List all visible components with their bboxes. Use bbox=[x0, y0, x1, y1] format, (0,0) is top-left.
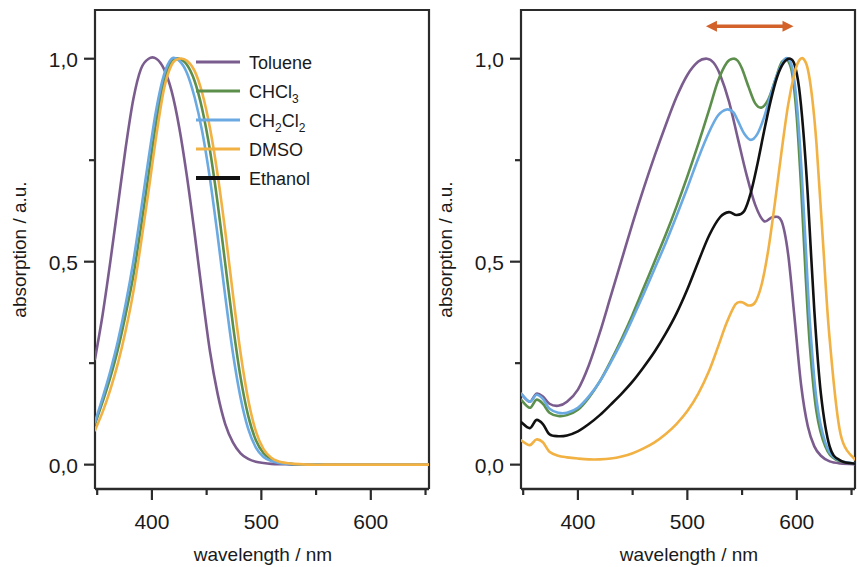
curve-ch2cl2 bbox=[521, 58, 857, 464]
x-axis-title: wavelength / nm bbox=[619, 544, 758, 565]
series-group bbox=[521, 58, 857, 464]
y-tick-label: 0,0 bbox=[49, 454, 78, 477]
y-tick-label: 0,0 bbox=[475, 454, 504, 477]
y-axis-title: absorption / a.u. bbox=[435, 181, 456, 317]
x-tick-label: 500 bbox=[244, 510, 279, 533]
y-axis-title: absorption / a.u. bbox=[9, 181, 30, 317]
range-arrow-annotation bbox=[706, 21, 794, 32]
legend-label-toluene: Toluene bbox=[249, 53, 312, 73]
x-tick-label: 400 bbox=[134, 510, 169, 533]
legend-label-ch2cl2: CH2Cl2 bbox=[249, 111, 306, 135]
legend-label-ethanol: Ethanol bbox=[249, 169, 310, 189]
y-tick-label: 1,0 bbox=[49, 48, 78, 71]
x-tick-label: 600 bbox=[353, 510, 388, 533]
y-tick-label: 1,0 bbox=[475, 48, 504, 71]
plot-area-right: 4005006000,00,51,0wavelength / nmabsorpt… bbox=[426, 0, 857, 567]
legend-label-chcl3: CHCl3 bbox=[249, 82, 299, 106]
y-tick-label: 0,5 bbox=[475, 251, 504, 274]
figure-root: 4005006000,00,51,0wavelength / nmabsorpt… bbox=[0, 0, 857, 567]
plot-area-left: 4005006000,00,51,0wavelength / nmabsorpt… bbox=[0, 0, 431, 567]
x-tick-label: 600 bbox=[779, 510, 814, 533]
x-axis-title: wavelength / nm bbox=[193, 544, 332, 565]
chart-panel-left: 4005006000,00,51,0wavelength / nmabsorpt… bbox=[0, 0, 431, 567]
chart-panel-right: 4005006000,00,51,0wavelength / nmabsorpt… bbox=[426, 0, 857, 567]
x-tick-label: 400 bbox=[560, 510, 595, 533]
x-tick-label: 500 bbox=[670, 510, 705, 533]
legend-label-dmso: DMSO bbox=[249, 140, 303, 160]
y-tick-label: 0,5 bbox=[49, 251, 78, 274]
